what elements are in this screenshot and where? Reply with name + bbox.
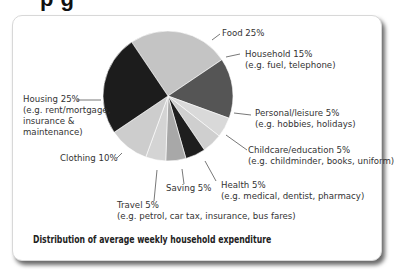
label-saving: Saving 5% <box>166 183 211 194</box>
label-travel: Travel 5%(e.g. petrol, car tax, insuranc… <box>117 200 296 222</box>
label-personal-leisure: Personal/leisure 5%(e.g. hobbies, holida… <box>255 108 356 130</box>
label-food: Food 25% <box>222 28 264 39</box>
label-clothing: Clothing 10% <box>60 153 118 164</box>
label-childcare-education: Childcare/education 5%(e.g. childminder,… <box>248 145 394 167</box>
label-health: Health 5%(e.g. medical, dentist, pharmac… <box>221 180 364 202</box>
label-housing: Housing 25%(e.g. rent/mortgage,insurance… <box>23 94 110 138</box>
chart-caption: Distribution of average weekly household… <box>33 234 271 245</box>
pie-slices <box>103 31 233 161</box>
label-household: Household 15%(e.g. fuel, telephone) <box>245 49 335 71</box>
